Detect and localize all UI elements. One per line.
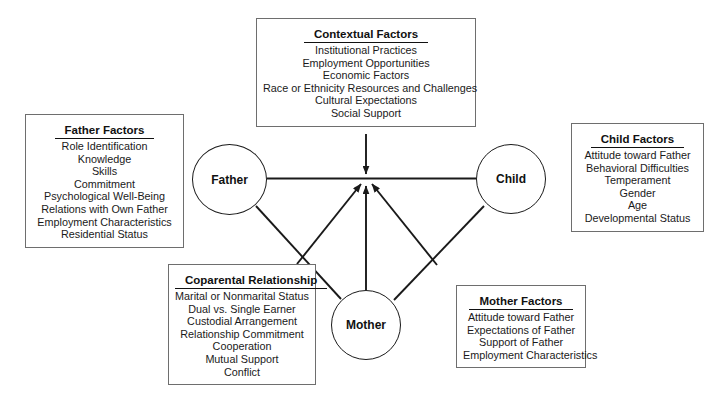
mother-factors-title: Mother Factors [469,295,572,310]
contextual-factors-box: Contextual Factors Institutional Practic… [256,18,476,127]
contextual-factors-title: Contextual Factors [304,28,428,43]
list-item: Employment Opportunities [263,57,469,70]
node-child: Child [476,144,546,214]
connector-mother-factors-to-hub [372,184,437,265]
mother-factors-list: Attitude toward Father Expectations of F… [463,311,579,361]
node-child-label: Child [496,172,526,186]
list-item: Role Identification [32,140,177,153]
list-item: Temperament [578,174,697,187]
list-item: Marital or Nonmarital Status [175,290,309,303]
list-item: Relations with Own Father [32,203,177,216]
child-factors-list: Attitude toward Father Behavioral Diffic… [578,149,697,225]
list-item: Attitude toward Father [463,311,579,324]
mother-factors-box: Mother Factors Attitude toward Father Ex… [456,285,586,368]
list-item: Residential Status [32,228,177,241]
coparental-relationship-list: Marital or Nonmarital Status Dual vs. Si… [175,290,309,378]
list-item: Support of Father [463,336,579,349]
list-item: Gender [578,187,697,200]
child-factors-box: Child Factors Attitude toward Father Beh… [571,123,704,232]
father-factors-title: Father Factors [55,124,155,139]
list-item: Expectations of Father [463,324,579,337]
list-item: Economic Factors [263,69,469,82]
list-item: Employment Characteristics [463,349,579,362]
list-item: Psychological Well-Being [32,190,177,203]
list-item: Mutual Support [175,353,309,366]
father-factors-box: Father Factors Role Identification Knowl… [25,114,184,248]
list-item: Employment Characteristics [32,216,177,229]
diagram-canvas: Contextual Factors Institutional Practic… [0,0,716,397]
list-item: Commitment [32,178,177,191]
father-factors-list: Role Identification Knowledge Skills Com… [32,140,177,241]
list-item: Institutional Practices [263,44,469,57]
list-item: Cultural Expectations [263,94,469,107]
node-father: Father [192,144,267,215]
node-mother-label: Mother [346,318,386,332]
list-item: Cooperation [175,340,309,353]
coparental-relationship-box: Coparental Relationship Marital or Nonma… [168,264,316,385]
node-mother: Mother [331,290,401,360]
node-father-label: Father [211,173,248,187]
list-item: Dual vs. Single Earner [175,303,309,316]
list-item: Social Support [263,107,469,120]
list-item: Skills [32,165,177,178]
list-item: Age [578,199,697,212]
list-item: Knowledge [32,153,177,166]
list-item: Attitude toward Father [578,149,697,162]
list-item: Developmental Status [578,212,697,225]
list-item: Behavioral Difficulties [578,162,697,175]
child-factors-title: Child Factors [591,133,684,148]
list-item: Custodial Arrangement [175,315,309,328]
coparental-relationship-title: Coparental Relationship [175,274,327,289]
list-item: Conflict [175,366,309,379]
list-item: Race or Ethnicity Resources and Challeng… [263,82,469,95]
connector-coparental-to-hub [297,184,361,264]
contextual-factors-list: Institutional Practices Employment Oppor… [263,44,469,120]
list-item: Relationship Commitment [175,328,309,341]
